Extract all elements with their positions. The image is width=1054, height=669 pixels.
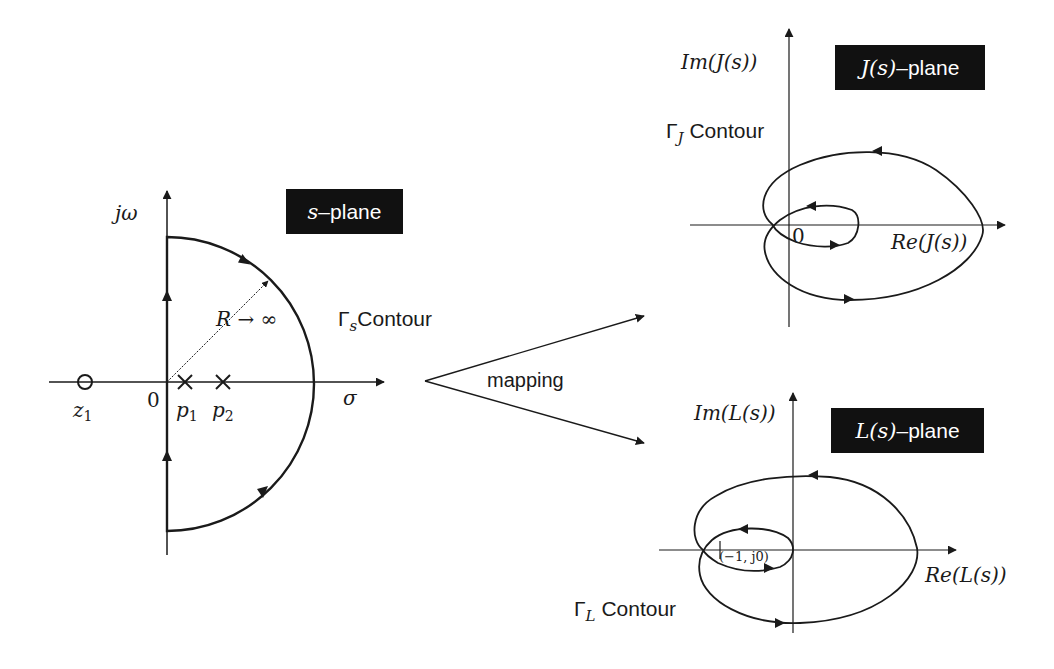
j-plane-origin-label: 0 bbox=[792, 226, 805, 246]
l-outer-arrow-bottom bbox=[775, 618, 785, 628]
mapping-label: mapping bbox=[487, 370, 564, 390]
s-plane-title-suffix: –plane bbox=[318, 200, 381, 224]
l-plane-title-suffix: –plane bbox=[897, 419, 960, 443]
s-plane-graph bbox=[49, 191, 384, 555]
l-plane-contour-label: ΓL Contour bbox=[574, 598, 676, 624]
s-plane-origin-label: 0 bbox=[147, 390, 160, 410]
s-plane-title-var: s bbox=[308, 200, 319, 224]
radius-label: R → ∞ bbox=[216, 309, 277, 329]
j-outer-arrow-top bbox=[872, 146, 882, 156]
j-outer-arrow-bottom bbox=[844, 294, 854, 304]
j-inner-arrow-top bbox=[806, 201, 816, 211]
j-plane-title-suffix: –plane bbox=[896, 56, 959, 80]
s-plane-contour-label: ΓsContour bbox=[338, 308, 432, 334]
nyquist-mapping-diagram: s–plane jω σ 0 z1 p1 p2 R → ∞ ΓsContour … bbox=[0, 0, 1054, 669]
s-plane-title-box: s–plane bbox=[286, 189, 403, 234]
j-plane-re-label: Re(J(s)) bbox=[891, 232, 967, 252]
j-plane-title-box: J(s)–plane bbox=[835, 45, 985, 90]
zero-label: z1 bbox=[73, 400, 92, 423]
pole-label-p1: p1 bbox=[176, 400, 198, 423]
l-plane-title-var: L(s) bbox=[855, 419, 896, 443]
contour-arrow-up-upper bbox=[162, 290, 172, 301]
s-plane-jw-label: jω bbox=[115, 203, 138, 223]
s-plane-radius-arrow bbox=[167, 281, 268, 382]
l-inner-arrow-top bbox=[738, 524, 748, 534]
pole-label-p2: p2 bbox=[212, 400, 234, 423]
contour-arrow-up-lower bbox=[162, 450, 172, 461]
diagram-graphics bbox=[0, 0, 1054, 669]
s-plane-sigma-label: σ bbox=[343, 388, 357, 408]
j-plane-im-label: Im(J(s)) bbox=[681, 52, 757, 72]
j-plane-title-var: J(s) bbox=[861, 56, 897, 80]
l-outer-arrow-top bbox=[808, 470, 818, 480]
s-plane-contour bbox=[167, 237, 314, 531]
l-plane-re-label: Re(L(s)) bbox=[925, 565, 1007, 585]
l-plane-im-label: Im(L(s)) bbox=[694, 403, 776, 423]
j-inner-arrow-bottom bbox=[830, 240, 840, 250]
l-plane-title-box: L(s)–plane bbox=[831, 408, 984, 453]
j-plane-contour-label: ΓJ Contour bbox=[666, 120, 764, 146]
l-inner-arrow-bottom bbox=[764, 563, 774, 573]
critical-point-label: (−1, j0) bbox=[719, 550, 769, 563]
